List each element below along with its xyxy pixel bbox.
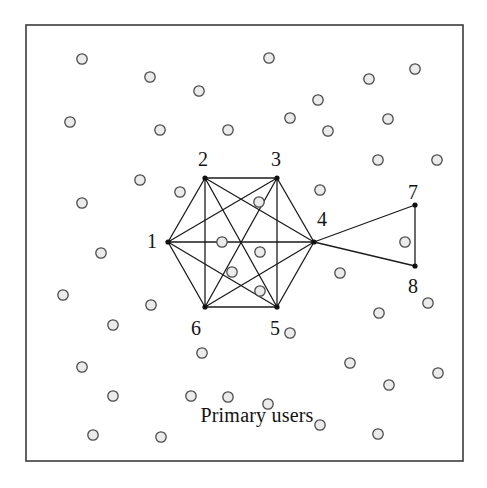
primary-user-node bbox=[373, 155, 383, 165]
primary-user-node bbox=[223, 125, 233, 135]
primary-user-node bbox=[156, 432, 166, 442]
primary-users-caption: Primary users bbox=[200, 404, 313, 427]
primary-user-node bbox=[323, 126, 333, 136]
node-label-4: 4 bbox=[317, 209, 327, 229]
graph-node-dot-6 bbox=[202, 304, 207, 309]
primary-user-node bbox=[374, 308, 384, 318]
primary-user-node bbox=[175, 187, 185, 197]
primary-user-node bbox=[217, 237, 227, 247]
node-label-7: 7 bbox=[408, 182, 418, 202]
primary-user-node bbox=[384, 380, 394, 390]
graph-node-dot-5 bbox=[274, 304, 279, 309]
primary-user-node bbox=[77, 54, 87, 64]
primary-user-node bbox=[285, 328, 295, 338]
primary-user-node bbox=[223, 392, 233, 402]
primary-user-node bbox=[315, 185, 325, 195]
primary-user-node bbox=[254, 197, 264, 207]
primary-user-node bbox=[108, 320, 118, 330]
graph-node-dot-8 bbox=[412, 263, 417, 268]
primary-user-node bbox=[373, 429, 383, 439]
primary-user-node bbox=[383, 114, 393, 124]
graph-node-dot-2 bbox=[202, 175, 207, 180]
primary-user-node bbox=[255, 247, 265, 257]
graph-node-dot-1 bbox=[165, 239, 170, 244]
primary-user-node bbox=[264, 53, 274, 63]
figure-container: 12345678 Primary users bbox=[0, 0, 487, 488]
node-label-3: 3 bbox=[271, 149, 281, 169]
primary-user-node bbox=[335, 268, 345, 278]
graph-node-dot-3 bbox=[274, 175, 279, 180]
graph-node-dot-4 bbox=[311, 239, 316, 244]
node-label-1: 1 bbox=[147, 231, 157, 251]
primary-user-node bbox=[285, 113, 295, 123]
node-label-5: 5 bbox=[270, 318, 280, 338]
primary-user-node bbox=[65, 117, 75, 127]
primary-user-node bbox=[77, 198, 87, 208]
node-label-8: 8 bbox=[408, 276, 418, 296]
primary-user-node bbox=[432, 155, 442, 165]
primary-user-node bbox=[145, 72, 155, 82]
primary-user-node bbox=[410, 64, 420, 74]
graph-node-dot-7 bbox=[412, 202, 417, 207]
primary-user-node bbox=[197, 348, 207, 358]
primary-user-node bbox=[313, 95, 323, 105]
primary-user-node bbox=[155, 125, 165, 135]
primary-user-node bbox=[255, 286, 265, 296]
figure-frame bbox=[26, 25, 463, 461]
primary-user-node bbox=[364, 74, 374, 84]
node-label-6: 6 bbox=[191, 318, 201, 338]
node-label-2: 2 bbox=[198, 149, 208, 169]
primary-user-node bbox=[96, 248, 106, 258]
primary-user-node bbox=[194, 86, 204, 96]
primary-user-node bbox=[186, 391, 196, 401]
primary-user-node bbox=[88, 430, 98, 440]
primary-user-node bbox=[400, 237, 410, 247]
primary-user-node bbox=[135, 175, 145, 185]
primary-user-node bbox=[423, 298, 433, 308]
primary-user-node bbox=[77, 362, 87, 372]
primary-user-node bbox=[227, 267, 237, 277]
primary-user-node bbox=[108, 391, 118, 401]
primary-user-node bbox=[345, 358, 355, 368]
primary-user-node bbox=[58, 290, 68, 300]
primary-user-node bbox=[315, 420, 325, 430]
primary-user-node bbox=[433, 368, 443, 378]
primary-user-node bbox=[146, 300, 156, 310]
